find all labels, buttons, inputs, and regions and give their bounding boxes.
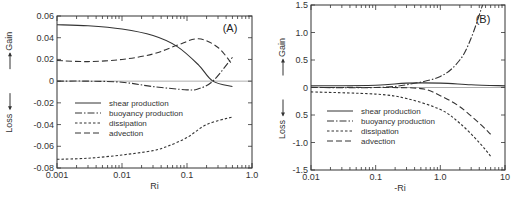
y-tick-label: 1.0	[295, 28, 308, 38]
series-buoyancy-production	[311, 5, 483, 88]
legend-label: buoyancy production	[109, 109, 183, 118]
x-axis-title: Ri	[150, 181, 159, 191]
x-tick-label: 0.1	[369, 172, 382, 182]
loss-label: Loss	[4, 113, 14, 133]
series-advection	[57, 39, 232, 65]
arrow-down-icon	[8, 106, 12, 110]
chart-panel-a: 0.0010.010.11.0Ri0.060.040.020-0.02-0.04…	[4, 11, 258, 191]
legend-label: advection	[109, 129, 143, 138]
y-tick-label: 0.5	[295, 55, 308, 65]
y-tick-label: -1.5	[292, 165, 308, 175]
y-tick-label: -0.02	[33, 98, 54, 108]
y-tick-label: 0.04	[36, 33, 54, 43]
chart-panel-b: 0.010.11.010-Ri1.51.00.500.5-1.0-1.5Gain…	[277, 0, 510, 193]
series-shear-production	[57, 25, 232, 87]
x-tick-label: 1.0	[246, 170, 259, 180]
y-tick-label: 0.5	[295, 110, 308, 120]
y-tick-label: 0	[49, 76, 54, 86]
panel-label: (A)	[223, 22, 238, 34]
y-tick-label: -1.0	[292, 138, 308, 148]
legend-label: advection	[361, 137, 395, 146]
loss-label: Loss	[277, 119, 287, 139]
y-tick-label: -0.08	[33, 163, 54, 173]
x-tick-label: 0.01	[113, 170, 131, 180]
legend-label: shear production	[109, 99, 169, 108]
x-tick-label: 1.0	[434, 172, 447, 182]
y-tick-label: 0.06	[36, 11, 54, 21]
arrow-up-icon	[8, 52, 12, 56]
y-tick-label: 0.02	[36, 54, 54, 64]
gain-label: Gain	[4, 32, 14, 51]
y-tick-label: 0	[303, 83, 308, 93]
x-axis-title: -Ri	[394, 183, 406, 193]
legend-label: dissipation	[361, 127, 399, 136]
legend-label: dissipation	[109, 119, 147, 128]
x-tick-label: 10	[500, 172, 510, 182]
legend-label: buoyancy production	[361, 117, 435, 126]
figure: 0.0010.010.11.0Ri0.060.040.020-0.02-0.04…	[0, 0, 515, 201]
plot-frame	[57, 16, 252, 168]
legend-label: shear production	[361, 107, 421, 116]
y-tick-label: 1.5	[295, 0, 308, 10]
arrow-down-icon	[281, 113, 285, 117]
panel-label: (B)	[476, 13, 491, 25]
gain-label: Gain	[277, 38, 287, 57]
y-tick-label: -0.04	[33, 120, 54, 130]
arrow-up-icon	[281, 59, 285, 63]
x-tick-label: 0.1	[181, 170, 194, 180]
y-tick-label: -0.06	[33, 141, 54, 151]
